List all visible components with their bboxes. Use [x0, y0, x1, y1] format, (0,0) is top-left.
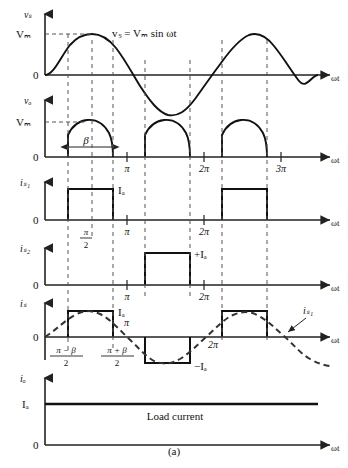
vo-tick-label-3pi: 3π [275, 163, 287, 174]
waveform-svg: vₛ Vₘ 0 ωt vₛ = Vₘ sin ωt β vₒ Vₘ 0 ωt π… [0, 0, 348, 468]
is1-axis-label: iₛ₁ [20, 177, 30, 188]
is1-tick-label-2pi: 2π [199, 226, 210, 237]
plot-vo: β vₒ Vₘ 0 ωt π 2π 3π [16, 95, 340, 174]
is-fraction-left-denominator: 2 [64, 358, 69, 368]
is-tick-label-pi: π [124, 317, 130, 328]
vo-tick-label-pi: π [124, 163, 130, 174]
svg-text:2: 2 [84, 240, 89, 250]
vo-pulse-1 [68, 120, 113, 157]
io-amplitude-label: Iₐ [22, 398, 29, 410]
vs-equation: vₛ = Vₘ sin ωt [112, 27, 177, 39]
vo-pulse-3 [222, 120, 267, 157]
is1-omega-label: ωt [331, 218, 340, 228]
is1-amplitude-label: Iₐ [118, 184, 125, 196]
is2-amplitude-label: +Iₐ [194, 248, 207, 260]
plot-vs: vₛ Vₘ 0 ωt vₛ = Vₘ sin ωt [16, 9, 340, 115]
is2-pulse-1 [145, 253, 190, 285]
io-load-current-text: Load current [147, 410, 204, 422]
is1-tick-label-pi-over-2: π 2 [80, 227, 92, 250]
vs-omega-label: ωt [331, 73, 340, 83]
vo-omega-label: ωt [331, 155, 340, 165]
guide-lines [68, 34, 267, 352]
is-tick-label-2pi: 2π [208, 339, 219, 350]
vo-axis-label: vₒ [24, 95, 31, 106]
is-fraction-right-denominator: 2 [115, 358, 120, 368]
waveform-figure: vₛ Vₘ 0 ωt vₛ = Vₘ sin ωt β vₒ Vₘ 0 ωt π… [0, 0, 348, 468]
is-positive-pulse-1 [68, 311, 113, 337]
vo-zero-label: 0 [33, 151, 39, 163]
is1-pulse-1 [68, 189, 113, 220]
is1-pulse-2 [222, 189, 267, 220]
is1-tick-label-pi: π [124, 226, 130, 237]
figure-caption: (a) [0, 445, 348, 457]
is-positive-pulse-2 [222, 311, 267, 337]
vo-amplitude-label: Vₘ [16, 116, 31, 128]
io-axis-label: iₒ [20, 373, 26, 384]
is2-tick-label-2pi: 2π [199, 291, 210, 302]
svg-text:π: π [84, 227, 89, 237]
is-negative-label: −Iₐ [194, 360, 207, 372]
is1-zero-label: 0 [33, 214, 39, 226]
is-fraction-right: π + β 2 [101, 345, 134, 368]
is2-zero-label: 0 [33, 279, 39, 291]
is2-omega-label: ωt [331, 283, 340, 293]
is1-leader-line [288, 318, 306, 332]
is2-axis-label: iₛ₂ [20, 243, 31, 254]
vo-tick-label-2pi: 2π [199, 163, 210, 174]
is1-annotation-label: iₛ₁ [303, 305, 313, 316]
is-fraction-left-numerator: π − β [56, 345, 76, 355]
plot-io: iₒ Iₐ 0 ωt Load current [20, 373, 340, 453]
vs-amplitude-label: Vₘ [16, 28, 31, 40]
vs-axis-label: vₛ [24, 9, 32, 20]
is2-tick-label-pi: π [124, 291, 130, 302]
is-omega-label: ωt [331, 335, 340, 345]
beta-label: β [82, 134, 89, 146]
vs-zero-label: 0 [33, 69, 39, 81]
is-zero-label: 0 [33, 331, 39, 343]
is-fraction-right-numerator: π + β [107, 345, 127, 355]
is-axis-label: iₛ [20, 298, 27, 309]
is-fraction-left: π − β 2 [50, 345, 83, 368]
vo-pulse-2 [145, 120, 190, 157]
is-fundamental-sine [45, 311, 330, 366]
